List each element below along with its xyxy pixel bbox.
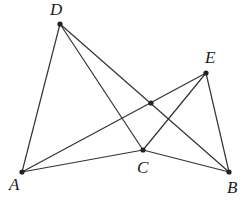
label-e: E: [204, 48, 216, 67]
point-d: [57, 21, 62, 26]
label-b: B: [227, 178, 238, 197]
point-b: [226, 169, 231, 174]
label-a: A: [8, 175, 20, 194]
label-d: D: [49, 0, 63, 19]
diagram-svg: ABCDE: [0, 0, 245, 221]
geometry-diagram: ABCDE: [0, 0, 245, 221]
point-e: [203, 70, 208, 75]
points-group: [19, 21, 231, 174]
point-a: [19, 169, 24, 174]
segment-dc: [60, 24, 143, 150]
segments-group: [22, 24, 229, 172]
point-c: [140, 147, 145, 152]
labels-group: ABCDE: [8, 0, 238, 197]
segment-eb: [206, 73, 229, 172]
point-p: [148, 100, 153, 105]
segment-ea: [22, 73, 206, 172]
segment-ac: [22, 150, 143, 172]
segment-ec: [143, 73, 206, 150]
segment-da: [22, 24, 60, 172]
label-c: C: [137, 158, 149, 177]
